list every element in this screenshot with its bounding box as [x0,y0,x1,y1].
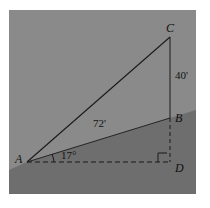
geometry-diagram [9,10,196,194]
measure-label-angle: 17° [61,150,76,161]
vertex-label-D: D [175,162,184,174]
measure-label-slope: 72' [93,118,106,129]
figure-frame: A B C D 40' 72' 17° [9,10,196,194]
vertex-label-B: B [175,112,182,124]
vertex-label-A: A [15,153,22,165]
measure-label-vertical: 40' [175,70,188,81]
vertex-label-C: C [166,22,174,34]
figure-container: A B C D 40' 72' 17° [0,0,210,208]
